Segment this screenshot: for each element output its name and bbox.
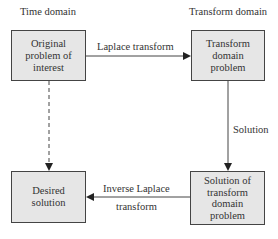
box-line: interest	[25, 62, 71, 74]
solution-label: Solution	[233, 124, 269, 135]
transform-solution-box: Solution of transform domain problem	[190, 171, 265, 225]
inverse-transform-label: transform	[116, 201, 157, 212]
transform-problem-box: Transform domain problem	[191, 30, 265, 81]
box-line: Original	[25, 38, 71, 50]
box-line: Transform	[206, 38, 250, 50]
inverse-arrowhead	[86, 193, 94, 201]
solution-arrowhead	[224, 163, 232, 171]
box-line: Solution of	[204, 175, 251, 187]
original-problem-box: Original problem of interest	[11, 30, 86, 81]
desired-solution-box: Desired solution	[11, 171, 86, 223]
box-line: transform	[204, 187, 251, 199]
box-line: problem	[204, 210, 251, 222]
box-line: solution	[32, 197, 66, 209]
laplace-arrowhead	[183, 52, 191, 60]
transform-domain-header: Transform domain	[189, 6, 267, 17]
laplace-transform-label: Laplace transform	[97, 41, 174, 52]
box-line: domain	[206, 50, 250, 62]
box-line: Desired	[32, 185, 66, 197]
box-line: domain	[204, 198, 251, 210]
time-domain-header: Time domain	[20, 6, 76, 17]
inverse-laplace-label: Inverse Laplace	[103, 183, 170, 194]
box-line: problem	[206, 62, 250, 74]
box-line: problem of	[25, 50, 71, 62]
dashed-arrowhead	[45, 163, 53, 171]
